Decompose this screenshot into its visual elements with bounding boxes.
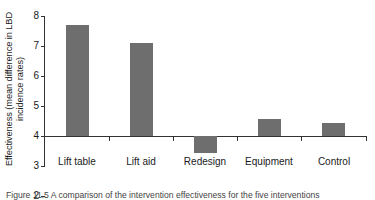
bar-lift-table [66,25,89,136]
y-tick-mark [41,106,45,107]
x-category-label-lift-aid: Lift aid [126,156,155,167]
y-axis-line [44,16,45,166]
y-tick-mark [41,16,45,17]
y-tick-label: 6 [33,71,39,81]
x-tick-mark [109,137,110,141]
y-axis-title-line-2: incidence rates) [15,12,26,166]
y-tick-mark [41,46,45,47]
y-tick-label: 7 [33,41,39,51]
x-tick-mark [173,137,174,141]
x-tick-mark [237,137,238,141]
figure-container: Effectiveness (mean difference in LBD in… [0,0,375,200]
x-category-label-control: Control [318,156,350,167]
y-tick-label: 5 [33,101,39,111]
bar-control [322,123,345,136]
figure-caption: Figure 11.5 A comparison of the interven… [6,190,372,200]
y-tick-label: 3 [33,161,39,171]
bar-lift-aid [130,43,153,136]
bar-equipment [258,119,281,136]
y-axis-title-text: Effectiveness (mean difference in LBD in… [4,12,26,166]
y-tick-mark [41,166,45,167]
y-tick-label: 8 [33,11,39,21]
y-axis-title-line-1: Effectiveness (mean difference in LBD [4,12,14,166]
y-tick-mark [41,76,45,77]
x-category-label-equipment: Equipment [245,156,293,167]
plot-area: 8 7 6 5 4 3 2 1 [45,16,367,166]
x-tick-mark [301,137,302,141]
y-tick-label: 4 [33,131,39,141]
bar-redesign [194,136,217,153]
x-category-label-redesign: Redesign [184,156,226,167]
y-axis-title: Effectiveness (mean difference in LBD in… [0,0,30,178]
y-tick-mark [41,136,45,137]
x-tick-mark [366,137,367,141]
x-category-label-lift-table: Lift table [58,156,96,167]
